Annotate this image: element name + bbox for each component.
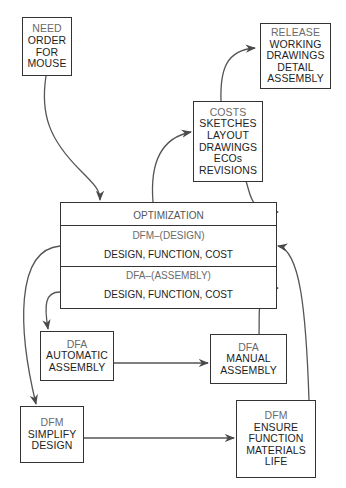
- node-release-line-5: ASSEMBLY: [267, 73, 324, 85]
- node-need-line-4: MOUSE: [27, 58, 66, 70]
- node-costs-line-3: LAYOUT: [207, 130, 249, 142]
- node-dfa-manual: DFA MANUAL ASSEMBLY: [210, 334, 287, 384]
- node-costs-line-6: REVISIONS: [199, 165, 257, 177]
- node-dfa-manual-line-2: ASSEMBLY: [220, 365, 277, 377]
- arrow-costs-to-release: [221, 48, 255, 101]
- node-release-line-1: RELEASE: [271, 27, 320, 39]
- node-need-line-2: ORDER: [28, 35, 66, 47]
- arrow-need-to-optimization: [44, 76, 100, 200]
- optimization-title: OPTIMIZATION: [61, 210, 276, 221]
- node-release: RELEASE WORKING DRAWINGS DETAIL ASSEMBLY: [260, 23, 331, 89]
- node-dfa-automatic: DFA AUTOMATIC ASSEMBLY: [40, 331, 114, 381]
- node-dfm-ensure-line-4: LIFE: [265, 456, 288, 468]
- node-costs: COSTS SKETCHES LAYOUT DRAWINGS ECOs REVI…: [193, 101, 263, 182]
- optimization-dfm-body: DESIGN, FUNCTION, COST: [61, 249, 276, 260]
- node-optimization: OPTIMIZATION DFM–(DESIGN) DESIGN, FUNCTI…: [60, 202, 277, 309]
- optimization-dfa-header: DFA–(ASSEMBLY): [61, 270, 276, 281]
- optimization-dfm-header: DFM–(DESIGN): [61, 230, 276, 241]
- optimization-divider-1: [61, 225, 276, 226]
- node-dfm-simplify-line-2: DESIGN: [32, 440, 73, 452]
- node-dfm-simplify: DFM SIMPLIFY DESIGN: [20, 406, 84, 463]
- node-dfm-simplify-label: DFM: [40, 417, 63, 429]
- optimization-dfa-body: DESIGN, FUNCTION, COST: [61, 289, 276, 300]
- node-costs-line-5: ECOs: [214, 153, 242, 165]
- node-dfa-automatic-line-2: ASSEMBLY: [49, 362, 106, 374]
- node-dfm-ensure: DFM ENSURE FUNCTION MATERIALS LIFE: [236, 400, 316, 478]
- node-need-order: NEED ORDER FOR MOUSE: [22, 17, 72, 76]
- node-dfm-ensure-label: DFM: [264, 410, 287, 422]
- arrow-optimization-to-automatic: [46, 292, 60, 329]
- optimization-divider-2: [61, 266, 276, 267]
- arrow-optimization-to-costs: [152, 132, 191, 202]
